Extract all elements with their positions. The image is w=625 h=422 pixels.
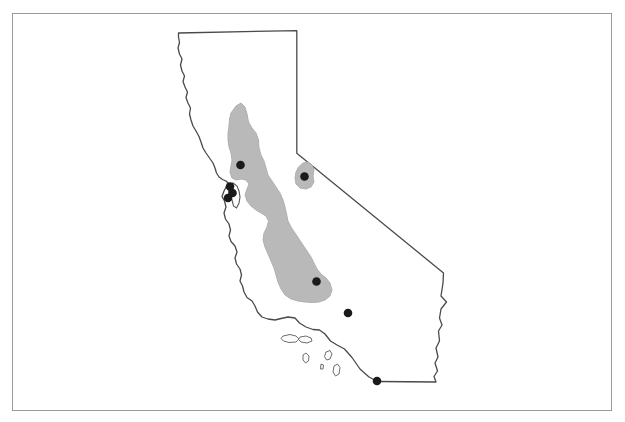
point-south-border <box>373 377 382 386</box>
point-north-valley <box>236 161 245 170</box>
point-south-valley <box>312 277 321 286</box>
island-5 <box>333 364 340 376</box>
california-map <box>0 0 625 422</box>
island-3 <box>303 353 309 363</box>
california-state-outline <box>178 31 447 382</box>
point-eastern-sierra <box>300 172 309 181</box>
island-1 <box>281 335 299 343</box>
point-bay-area-c <box>224 194 233 203</box>
island-4 <box>325 351 333 361</box>
figure-root <box>0 0 625 422</box>
state-outline-group <box>178 31 447 382</box>
island-6 <box>321 364 324 369</box>
point-southern-interior <box>344 309 353 318</box>
island-2 <box>299 336 313 343</box>
